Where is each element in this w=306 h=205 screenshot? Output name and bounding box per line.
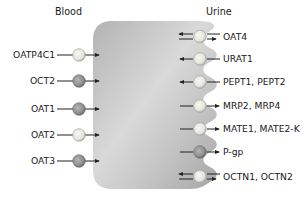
transporter-circle-dark bbox=[73, 103, 86, 116]
transporter-mate1-mate2k: MATE1, MATE2-K bbox=[180, 123, 301, 136]
transporter-label: MRP2, MRP4 bbox=[223, 100, 280, 111]
transporter-label: OATP4C1 bbox=[13, 49, 55, 60]
transporter-circle-light bbox=[194, 30, 207, 43]
urine-label: Urine bbox=[206, 6, 232, 17]
transporter-label: PEPT1, PEPT2 bbox=[223, 76, 286, 87]
transporter-circle-light bbox=[194, 76, 207, 89]
transporter-label: URAT1 bbox=[223, 53, 253, 64]
transporter-circle-light bbox=[194, 170, 207, 183]
transporter-label: OCT2 bbox=[30, 75, 55, 86]
transporter-circle-light bbox=[194, 123, 207, 136]
transporter-label: MATE1, MATE2-K bbox=[223, 123, 301, 134]
renal-transporter-diagram: Blood Urine OATP4C1 OCT2 OAT1 OAT2 OAT3 bbox=[0, 0, 306, 205]
transporter-oat3: OAT3 bbox=[31, 155, 99, 168]
transporter-oct2: OCT2 bbox=[30, 75, 99, 88]
transporter-circle-light bbox=[194, 53, 207, 66]
transporter-label: OAT3 bbox=[31, 155, 55, 166]
transporter-circle-light bbox=[194, 100, 207, 113]
transporter-circle-light bbox=[73, 129, 86, 142]
transporter-label: OAT2 bbox=[31, 129, 55, 140]
transporter-label: OAT1 bbox=[31, 103, 55, 114]
transporter-pept1-pept2: PEPT1, PEPT2 bbox=[180, 76, 286, 89]
transporter-circle-dark bbox=[73, 75, 86, 88]
transporter-label: OCTN1, OCTN2 bbox=[223, 171, 293, 182]
transporter-circle-dark bbox=[194, 146, 207, 159]
transporter-label: P-gp bbox=[223, 146, 243, 157]
transporter-oat1: OAT1 bbox=[31, 103, 99, 116]
blood-label: Blood bbox=[55, 6, 82, 17]
transporter-label: OAT4 bbox=[223, 31, 247, 42]
transporter-circle-dark bbox=[73, 155, 86, 168]
transporter-circle-light bbox=[73, 49, 86, 62]
transporter-oatp4c1: OATP4C1 bbox=[13, 49, 99, 62]
transporter-octn1-octn2: OCTN1, OCTN2 bbox=[179, 170, 293, 183]
transporter-oat2: OAT2 bbox=[31, 129, 99, 142]
